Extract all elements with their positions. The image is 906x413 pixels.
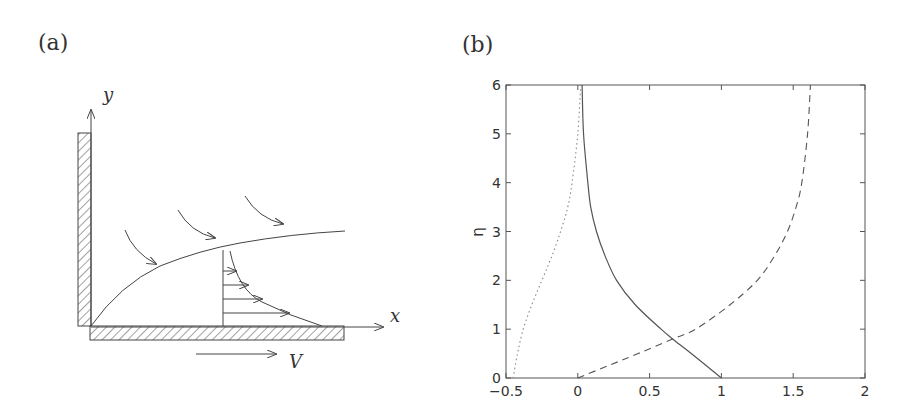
y-tick-label: 3	[492, 224, 501, 240]
x-tick-label: 1.5	[782, 383, 804, 399]
eta-axis-label: η	[469, 227, 487, 237]
x-tick-label: 2	[861, 383, 870, 399]
y-tick-label: 5	[492, 126, 501, 142]
y-tick-label: 0	[492, 370, 501, 386]
y-tick-label: 2	[492, 272, 501, 288]
panel-b: (b) −0.500.511.520123456 η	[462, 32, 869, 399]
entrainment-arrow-1	[125, 230, 156, 264]
wall-velocity-label: V	[289, 351, 304, 372]
axis-ticks	[506, 85, 865, 378]
x-axis-label: x	[390, 305, 400, 326]
dotted-curve	[513, 85, 580, 378]
entrainment-arrow-2	[178, 210, 215, 238]
vertical-wall	[78, 133, 91, 326]
y-tick-label: 6	[492, 77, 501, 93]
x-tick-label: 1	[717, 383, 726, 399]
x-tick-label: 0	[573, 383, 582, 399]
y-tick-label: 1	[492, 321, 501, 337]
moving-wall	[90, 326, 344, 340]
y-axis-label: y	[102, 84, 114, 105]
solid-curve	[582, 85, 721, 378]
figure: (a) y x V (b) −0.500.511.520123456	[0, 0, 906, 413]
entrainment-arrow-3	[245, 196, 283, 224]
panel-a: (a) y x V	[38, 30, 400, 372]
plot-frame	[506, 85, 865, 378]
y-tick-label: 4	[492, 175, 501, 191]
dashed-curve	[578, 85, 811, 378]
velocity-profile-curve	[230, 251, 322, 326]
boundary-layer-edge	[91, 231, 345, 326]
panel-b-label: (b)	[462, 32, 493, 57]
x-tick-label: 0.5	[638, 383, 660, 399]
panel-a-label: (a)	[38, 30, 68, 55]
tick-labels: −0.500.511.520123456	[489, 77, 869, 399]
